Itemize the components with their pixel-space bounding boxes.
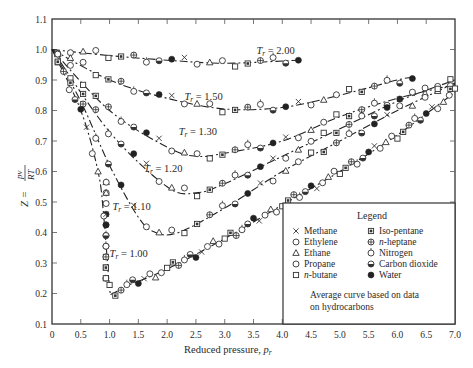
triangle-marker-icon: [210, 238, 216, 244]
circle-marker-icon: [147, 271, 153, 277]
filled-circle-marker-icon: [295, 57, 301, 63]
triangle-marker-icon: [325, 174, 331, 180]
square-marker-icon: [93, 73, 98, 78]
square-dot-marker-icon: [93, 93, 98, 98]
circle-marker-icon: [103, 201, 109, 207]
circle-half-marker-icon: [302, 189, 308, 195]
triangle-marker-icon: [152, 274, 158, 280]
circle-marker-icon: [308, 138, 314, 144]
filled-circle-marker-icon: [409, 76, 415, 82]
square-marker-icon: [165, 265, 170, 270]
square-marker-icon: [103, 276, 108, 281]
circle-half-marker-icon: [245, 172, 251, 178]
square-marker-icon: [80, 82, 85, 87]
circle-tick-marker-icon: [118, 116, 124, 124]
svg-text:0.7: 0.7: [35, 137, 47, 147]
circle-marker-icon: [293, 239, 299, 245]
cross-marker-icon: [156, 136, 161, 141]
circle-half-marker-icon: [371, 113, 377, 119]
square-dot-marker-icon: [401, 129, 406, 134]
circle-marker-icon: [156, 179, 162, 185]
circle-tick-marker-icon: [105, 129, 111, 137]
square-marker-icon: [220, 110, 225, 115]
circle-cross-marker-icon: [257, 58, 263, 64]
circle-marker-icon: [143, 224, 149, 230]
circle-cross-marker-icon: [245, 104, 251, 110]
circle-tick-marker-icon: [93, 133, 99, 141]
svg-text:0.8: 0.8: [35, 106, 47, 116]
circle-marker-icon: [422, 94, 428, 100]
square-marker-icon: [321, 130, 326, 135]
circle-marker-icon: [308, 102, 314, 108]
circle-marker-icon: [55, 51, 61, 57]
cross-marker-icon: [182, 55, 187, 60]
circle-half-marker-icon: [245, 221, 251, 227]
square-marker-icon: [293, 272, 298, 277]
svg-text:0.4: 0.4: [35, 228, 47, 238]
circle-marker-icon: [181, 185, 187, 191]
circle-half-marker-icon: [131, 124, 137, 130]
square-dot-marker-icon: [245, 61, 250, 66]
x-tick-labels: 00.51.01.52.02.53.03.54.04.55.05.56.06.5…: [50, 330, 462, 340]
filled-circle-marker-icon: [384, 105, 390, 111]
circle-marker-icon: [377, 145, 383, 151]
circle-cross-marker-icon: [219, 180, 225, 186]
circle-cross-marker-icon: [291, 192, 297, 198]
svg-text:0.1: 0.1: [35, 320, 47, 330]
filled-circle-marker-icon: [283, 104, 289, 110]
triangle-marker-icon: [169, 184, 175, 190]
square-marker-icon: [308, 150, 313, 155]
circle-cross-marker-icon: [176, 262, 182, 268]
circle-tick-marker-icon: [346, 129, 352, 137]
circle-marker-icon: [293, 261, 299, 267]
circle-half-marker-icon: [283, 60, 289, 66]
square-dot-marker-icon: [170, 260, 175, 265]
filled-circle-marker-icon: [371, 121, 377, 127]
triangle-marker-icon: [95, 168, 101, 174]
circle-tick-marker-icon: [384, 75, 390, 83]
circle-marker-icon: [219, 58, 225, 64]
square-dot-marker-icon: [368, 228, 373, 233]
filled-circle-marker-icon: [257, 164, 263, 170]
legend-note-line2: on hydrocarbons: [310, 302, 374, 312]
filled-circle-marker-icon: [368, 272, 374, 278]
circle-cross-marker-icon: [131, 52, 137, 58]
circle-marker-icon: [333, 92, 339, 98]
circle-half-marker-icon: [118, 141, 124, 147]
svg-text:0.5: 0.5: [75, 330, 87, 340]
square-marker-icon: [182, 231, 187, 236]
circle-tick-marker-icon: [219, 201, 225, 209]
legend-entry-label: Iso-pentane: [379, 226, 423, 236]
triangle-marker-icon: [268, 206, 274, 212]
circle-cross-marker-icon: [233, 233, 239, 239]
square-dot-marker-icon: [220, 152, 225, 157]
y-axis-label: Z = pv RT: [14, 165, 36, 207]
svg-text:6.0: 6.0: [391, 330, 403, 340]
square-marker-icon: [395, 136, 400, 141]
square-marker-icon: [337, 171, 342, 176]
circle-marker-icon: [283, 155, 289, 161]
circle-marker-icon: [169, 148, 175, 154]
isotherm-label: Tr = 1.20: [144, 163, 182, 176]
cross-marker-icon: [283, 134, 288, 139]
square-dot-marker-icon: [113, 293, 118, 298]
svg-text:3.5: 3.5: [248, 330, 260, 340]
circle-half-marker-icon: [130, 277, 136, 283]
triangle-marker-icon: [383, 139, 389, 145]
circle-cross-marker-icon: [346, 121, 352, 127]
circle-marker-icon: [204, 244, 210, 250]
svg-text:1.5: 1.5: [132, 330, 144, 340]
circle-marker-icon: [389, 133, 395, 139]
square-dot-marker-icon: [343, 165, 348, 170]
svg-text:1.1: 1.1: [35, 15, 47, 25]
square-marker-icon: [106, 55, 111, 60]
legend-note-line1: Average curve based on data: [310, 290, 420, 300]
circle-marker-icon: [274, 209, 280, 215]
circle-cross-marker-icon: [93, 107, 99, 113]
filled-circle-marker-icon: [193, 255, 199, 261]
svg-text:4.5: 4.5: [305, 330, 317, 340]
triangle-marker-icon: [409, 103, 415, 109]
legend-entry-label: Ethylene: [304, 237, 338, 247]
triangle-marker-icon: [67, 55, 73, 61]
svg-text:3.0: 3.0: [219, 330, 231, 340]
